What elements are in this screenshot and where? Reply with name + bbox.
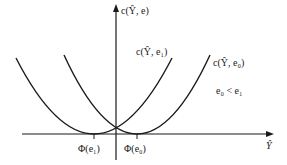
- phi-e0-label: Φ(e₀): [124, 144, 146, 154]
- phi-e1-label: Φ(e₁): [78, 144, 100, 154]
- y-axis-label: c(Ŷ, e): [121, 6, 149, 16]
- curve-label-e1: c(Ŷ, e₁): [136, 47, 167, 57]
- x-axis-label: Ŷ: [266, 141, 272, 151]
- diagram-canvas: c(Ŷ, e) c(Ŷ, e₁) c(Ŷ, e₀) e₀ < e₁ Φ(e₁) …: [0, 0, 287, 165]
- curve-c-Y-e0: [64, 55, 210, 134]
- curve-label-e0: c(Ŷ, e₀): [213, 58, 244, 68]
- x-axis-arrow-icon: [266, 131, 274, 137]
- inequality-annotation: e₀ < e₁: [216, 86, 243, 96]
- y-axis-arrow-icon: [113, 4, 119, 12]
- diagram-svg: [0, 0, 287, 165]
- curve-c-Y-e1: [16, 58, 172, 134]
